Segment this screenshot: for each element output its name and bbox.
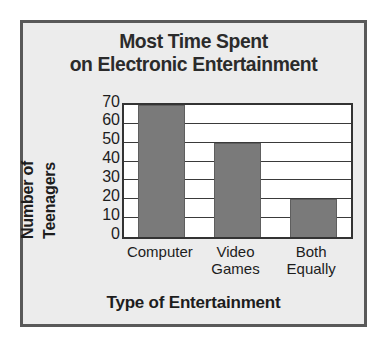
x-axis-tick-label: Both Equally: [273, 243, 349, 277]
bar: [290, 199, 337, 237]
y-axis-tick-labels: 70 60 50 40 30 20 10 0: [79, 97, 120, 238]
bar: [214, 143, 261, 237]
y-axis-tick-label: 70: [79, 95, 120, 108]
x-axis-title: Type of Entertainment: [23, 293, 364, 313]
y-axis-title-line-1: Number of: [19, 161, 37, 239]
y-axis-title: Number of Teenagers: [35, 101, 81, 239]
bar: [138, 105, 185, 237]
y-axis-tick-label: 60: [79, 113, 120, 126]
y-axis-title-line-2: Teenagers: [41, 162, 59, 239]
y-axis-tick-label: 30: [79, 170, 120, 183]
chart-title: Most Time Spent on Electronic Entertainm…: [37, 29, 351, 75]
y-axis-tick-label: 10: [79, 208, 120, 221]
x-axis-tick-label: Computer: [122, 243, 198, 260]
x-axis-tick-label: Video Games: [198, 243, 274, 277]
plot-area: [122, 103, 353, 239]
y-axis-tick-label: 40: [79, 151, 120, 164]
y-axis-tick-label: 20: [79, 189, 120, 202]
y-axis-tick-label: 0: [79, 227, 120, 240]
y-axis-tick-label: 50: [79, 132, 120, 145]
x-axis-tick-labels: Computer Video Games Both Equally: [122, 243, 353, 293]
chart-figure: Most Time Spent on Electronic Entertainm…: [20, 20, 367, 327]
